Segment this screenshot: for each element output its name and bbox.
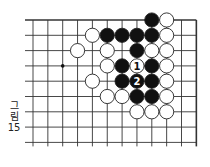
black-stone [115,28,129,42]
star-points [61,64,65,68]
white-stone [160,28,174,42]
black-stone: 2 [130,74,144,88]
white-stone [70,44,84,58]
black-stone [145,74,159,88]
white-stone [160,105,174,119]
caption-line-3: 15 [7,122,21,133]
white-stone [145,105,159,119]
white-stone [100,59,114,73]
white-stone [85,28,99,42]
star-point [61,64,65,68]
white-stone [145,44,159,58]
black-stone [130,89,144,103]
caption-line-1: 그 [7,100,21,111]
white-stone [160,89,174,103]
black-stone [130,44,144,58]
white-stone [160,59,174,73]
black-stone [130,28,144,42]
white-stone [115,89,129,103]
white-stone [160,74,174,88]
white-stone [130,105,144,119]
black-stone [145,59,159,73]
white-stone [100,89,114,103]
white-stone: 1 [130,59,144,73]
white-stone [160,13,174,27]
white-stone [85,74,99,88]
black-stone [115,59,129,73]
white-stone [160,44,174,58]
black-stone [145,13,159,27]
move-number-label: 1 [133,61,140,72]
black-stone [145,28,159,42]
move-number-label: 2 [133,76,140,87]
white-stone [100,44,114,58]
caption-line-2: 림 [7,111,21,122]
black-stone [145,89,159,103]
figure-caption: 그 림 15 [7,100,21,133]
go-board-diagram: 12 [0,0,210,167]
black-stone [115,74,129,88]
black-stone [100,28,114,42]
